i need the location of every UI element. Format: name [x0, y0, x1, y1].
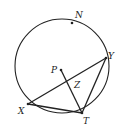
label-z: Z	[73, 80, 81, 90]
point-labels: N Y P Z X T	[17, 10, 115, 126]
circle-p	[15, 19, 109, 113]
segment-pt	[61, 70, 82, 113]
label-x: X	[17, 106, 25, 116]
circle-diagram: N Y P Z X T	[0, 0, 122, 131]
point-p-dot	[60, 69, 63, 72]
label-n: N	[74, 10, 84, 20]
label-t: T	[83, 116, 90, 126]
point-t-dot	[81, 112, 84, 115]
point-dots	[27, 22, 108, 115]
point-n-dot	[71, 22, 74, 25]
label-y: Y	[108, 51, 115, 61]
point-y-dot	[105, 57, 108, 60]
segment-xt	[28, 104, 82, 113]
label-p: P	[50, 65, 58, 75]
point-x-dot	[27, 103, 30, 106]
segment-yt	[82, 58, 106, 113]
segments	[28, 58, 106, 113]
